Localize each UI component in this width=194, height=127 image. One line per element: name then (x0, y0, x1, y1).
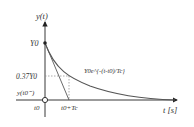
y-t0-minus-label: y(t0⁻) (16, 89, 35, 97)
exponential-decay-diagram: y(t) Y0 0.37Y0 y(t0⁻) t0 t0+Tc Y0e^{-(t-… (0, 0, 194, 127)
y0-point (43, 41, 47, 45)
x-axis-label: t [s] (163, 105, 177, 115)
curve-equation: Y0e^{-(t-t0)/Tc} (84, 67, 125, 75)
t0-label: t0 (34, 104, 40, 112)
y0-label: Y0 (30, 39, 38, 48)
y-axis-label: y(t) (35, 11, 48, 21)
t0-plus-tc-label: t0+Tc (61, 104, 78, 112)
t0-open-point (42, 97, 47, 102)
y037-label: 0.37Y0 (16, 72, 37, 81)
